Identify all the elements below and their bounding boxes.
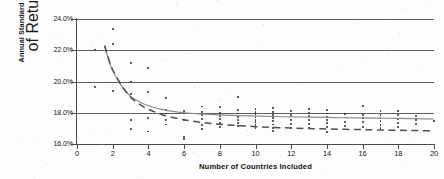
scatter-point xyxy=(308,108,310,110)
scatter-point xyxy=(362,105,364,107)
scatter-point xyxy=(112,28,114,30)
scatter-point xyxy=(112,90,114,92)
scatter-point xyxy=(219,106,221,108)
x-tick-label: 18 xyxy=(388,149,408,158)
scatter-point xyxy=(165,113,167,115)
scatter-point xyxy=(308,115,310,117)
scatter-point xyxy=(380,114,382,116)
scatter-point xyxy=(201,128,203,130)
y-tickmark xyxy=(71,113,77,114)
scatter-point xyxy=(147,67,149,69)
y-tickmark xyxy=(71,19,77,20)
gridline-22 xyxy=(77,50,434,51)
scatter-point xyxy=(147,131,149,133)
scatter-point xyxy=(183,138,185,140)
scatter-point xyxy=(326,116,328,118)
scatter-point xyxy=(344,125,346,127)
x-tick-label: 20 xyxy=(424,149,444,158)
scatter-point xyxy=(130,119,132,121)
scatter-point xyxy=(165,119,167,121)
chart-figure: Annual Standard Deviation of Returns 16.… xyxy=(0,0,444,179)
scatter-point xyxy=(255,121,257,123)
scatter-point xyxy=(326,122,328,124)
x-tick-label: 4 xyxy=(138,149,158,158)
plot-area xyxy=(77,19,434,144)
scatter-point xyxy=(290,127,292,129)
scatter-point xyxy=(272,107,274,109)
scatter-point xyxy=(183,119,185,121)
scatter-point xyxy=(397,122,399,124)
scatter-point xyxy=(219,126,221,128)
scatter-point xyxy=(326,109,328,111)
scatter-point xyxy=(237,109,239,111)
scatter-point xyxy=(362,114,364,116)
scatter-point xyxy=(237,96,239,98)
y-axis-title: Annual Standard Deviation xyxy=(21,0,22,80)
scatter-point xyxy=(237,116,239,118)
scatter-point xyxy=(147,117,149,119)
scatter-point xyxy=(165,109,167,111)
scatter-point xyxy=(397,114,399,116)
scatter-point xyxy=(237,119,239,121)
y-tick-label: 16.0% xyxy=(39,140,73,148)
scatter-point xyxy=(130,93,132,95)
scatter-point xyxy=(326,113,328,115)
scatter-point xyxy=(380,127,382,129)
scatter-point xyxy=(130,128,132,130)
scatter-point xyxy=(308,119,310,121)
scatter-point xyxy=(326,131,328,133)
scatter-point xyxy=(255,108,257,110)
scatter-point xyxy=(362,117,364,119)
x-axis-title: Number of Countries Included xyxy=(77,162,434,171)
x-tick-label: 10 xyxy=(246,149,266,158)
scatter-point xyxy=(255,127,257,129)
scatter-point xyxy=(326,126,328,128)
scatter-point xyxy=(344,113,346,115)
scatter-point xyxy=(415,123,417,125)
y-axis-title-second-line: of Returns xyxy=(32,0,33,80)
y-tick-label: 18.0% xyxy=(39,109,73,117)
scatter-point xyxy=(94,86,96,88)
scatter-point xyxy=(112,43,114,45)
y-tickmark xyxy=(71,82,77,83)
x-tick-label: 14 xyxy=(317,149,337,158)
scatter-point xyxy=(183,113,185,115)
scatter-point xyxy=(237,122,239,124)
scatter-point xyxy=(255,124,257,126)
gridline-24 xyxy=(77,19,434,20)
scatter-point xyxy=(433,120,435,122)
scatter-point xyxy=(147,91,149,93)
scatter-point xyxy=(272,114,274,116)
scatter-point xyxy=(290,123,292,125)
x-tick-label: 2 xyxy=(103,149,123,158)
scatter-point xyxy=(362,121,364,123)
scatter-point xyxy=(290,114,292,116)
scatter-point xyxy=(201,114,203,116)
scatter-point xyxy=(219,115,221,117)
scatter-point xyxy=(380,117,382,119)
scatter-point xyxy=(326,119,328,121)
scatter-point xyxy=(380,120,382,122)
scatter-point xyxy=(344,121,346,123)
scatter-point xyxy=(130,62,132,64)
scatter-point xyxy=(397,126,399,128)
scatter-point xyxy=(219,122,221,124)
x-tick-label: 12 xyxy=(281,149,301,158)
scatter-point xyxy=(272,127,274,129)
scatter-point xyxy=(255,116,257,118)
scatter-point xyxy=(415,119,417,121)
scatter-point xyxy=(362,126,364,128)
scatter-point xyxy=(165,124,167,126)
scatter-point xyxy=(201,111,203,113)
scatter-point xyxy=(308,127,310,129)
scatter-point xyxy=(201,118,203,120)
scatter-point xyxy=(290,119,292,121)
scatter-point xyxy=(201,106,203,108)
scatter-point xyxy=(308,123,310,125)
scatter-point xyxy=(219,118,221,120)
scatter-point xyxy=(308,112,310,114)
x-tick-label: 8 xyxy=(210,149,230,158)
y-tickmark xyxy=(71,50,77,51)
scatter-point xyxy=(397,118,399,120)
scatter-point xyxy=(272,124,274,126)
